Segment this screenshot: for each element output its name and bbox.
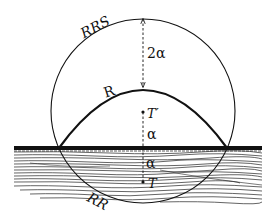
label-alpha-upper: α — [147, 126, 157, 142]
label-rrs: RRS — [77, 13, 112, 42]
point-t-prime — [141, 110, 144, 113]
label-rr: RR — [84, 189, 111, 214]
label-two-alpha: 2α — [147, 45, 166, 61]
label-t-prime: T′ — [147, 106, 159, 121]
optics-refraction-diagram: RRS 2α R T′ α α T RR — [0, 0, 273, 217]
point-t — [141, 180, 144, 183]
label-alpha-lower: α — [146, 155, 156, 171]
label-r: R — [102, 82, 117, 101]
water-surface-hatching — [14, 151, 262, 204]
label-t: T — [148, 176, 158, 191]
